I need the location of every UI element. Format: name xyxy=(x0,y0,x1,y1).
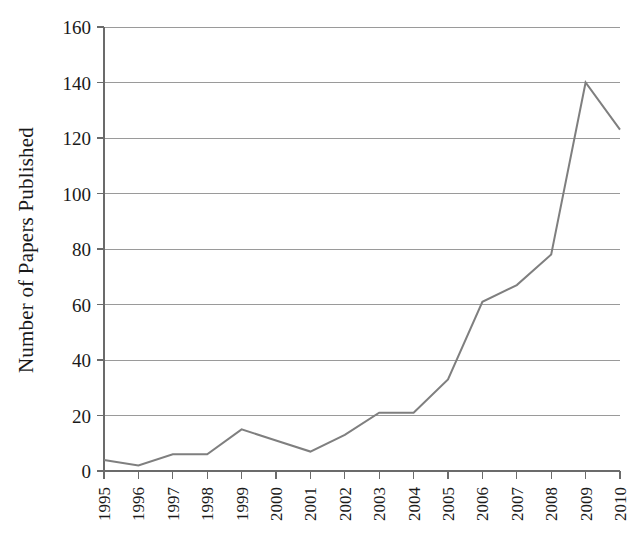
x-tick-marks xyxy=(104,471,620,479)
y-tick-label-20: 20 xyxy=(72,406,91,427)
y-tick-labels: 020406080100120140160 xyxy=(63,17,92,482)
y-tick-marks xyxy=(97,27,104,471)
x-tick-label-2000: 2000 xyxy=(267,487,286,521)
x-tick-label-1997: 1997 xyxy=(164,487,183,522)
x-tick-label-1995: 1995 xyxy=(95,487,114,521)
chart-container: 020406080100120140160 199519961997199819… xyxy=(0,0,640,548)
line-chart: 020406080100120140160 199519961997199819… xyxy=(0,0,640,548)
y-tick-label-160: 160 xyxy=(63,17,92,38)
y-axis-title: Number of Papers Published xyxy=(14,127,38,373)
x-tick-label-1996: 1996 xyxy=(129,487,148,521)
x-tick-label-2005: 2005 xyxy=(439,487,458,521)
x-tick-label-1999: 1999 xyxy=(233,487,252,521)
x-tick-label-2009: 2009 xyxy=(577,487,596,521)
x-axis: 1995199619971998199920002001200220032004… xyxy=(95,471,630,521)
y-tick-label-80: 80 xyxy=(72,239,91,260)
x-tick-label-2010: 2010 xyxy=(611,487,630,521)
y-tick-label-120: 120 xyxy=(63,128,92,149)
x-tick-label-2006: 2006 xyxy=(473,487,492,521)
x-tick-label-1998: 1998 xyxy=(198,487,217,521)
series-line-papers-published xyxy=(104,83,620,466)
y-axis: 020406080100120140160 xyxy=(63,17,105,482)
x-tick-label-2007: 2007 xyxy=(508,487,527,522)
y-tick-label-0: 0 xyxy=(82,461,92,482)
gridlines xyxy=(104,27,620,416)
x-tick-label-2001: 2001 xyxy=(301,487,320,521)
x-tick-label-2008: 2008 xyxy=(542,487,561,521)
x-tick-labels: 1995199619971998199920002001200220032004… xyxy=(95,487,630,522)
x-tick-label-2003: 2003 xyxy=(370,487,389,521)
y-tick-label-140: 140 xyxy=(63,73,92,94)
series-group xyxy=(104,83,620,466)
y-tick-label-100: 100 xyxy=(63,184,92,205)
y-tick-label-60: 60 xyxy=(72,295,91,316)
x-tick-label-2002: 2002 xyxy=(336,487,355,521)
x-tick-label-2004: 2004 xyxy=(405,487,424,522)
y-tick-label-40: 40 xyxy=(72,350,91,371)
